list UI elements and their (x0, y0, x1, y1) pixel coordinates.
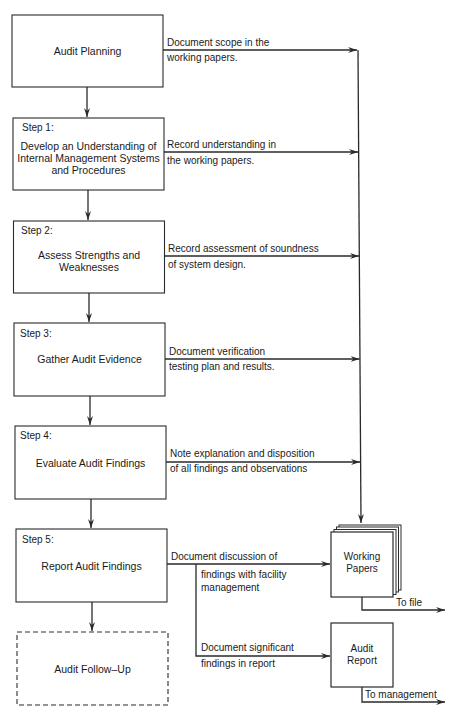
step-1-note-line1: Record understanding in (167, 139, 276, 151)
audit-report-title-line1: Audit (331, 643, 393, 655)
working-papers-title-line1: Working (331, 551, 393, 563)
working-papers-title-line2: Papers (331, 563, 393, 575)
step-4-label: Step 4: (20, 430, 52, 442)
planning-note-line2: working papers. (167, 52, 238, 64)
step-2-note-line1: Record assessment of soundness (168, 243, 319, 255)
step-1-title-line1: Develop an Understanding of (13, 140, 164, 153)
audit-follow-up-title: Audit Follow–Up (17, 663, 168, 676)
step-4-title: Evaluate Audit Findings (15, 457, 166, 470)
step-1-title-line2: Internal Management Systems (13, 152, 164, 165)
step-2-title-line1: Assess Strengths and (14, 249, 165, 262)
step-5-title: Report Audit Findings (16, 560, 167, 573)
step-5-branch-line1: Document significant (201, 642, 294, 654)
step-5-note-line2: findings with facility (201, 569, 287, 581)
step-4-note-line1: Note explanation and disposition (170, 448, 315, 460)
step-1-title-line3: and Procedures (13, 164, 164, 177)
step-5-label: Step 5: (22, 534, 54, 546)
step-2-label: Step 2: (21, 225, 53, 237)
step-1-label: Step 1: (22, 122, 54, 134)
to-management-label: To management (365, 689, 437, 701)
step-5-note-line3: management (201, 582, 259, 594)
step-3-label: Step 3: (20, 328, 52, 340)
step-3-title: Gather Audit Evidence (14, 353, 165, 366)
step-1-note-line2: the working papers. (167, 155, 254, 167)
planning-note-line1: Document scope in the (167, 37, 269, 49)
audit-report-title-line2: Report (331, 655, 393, 667)
audit-planning-title: Audit Planning (12, 45, 163, 58)
step-5-branch-line2: findings in report (201, 658, 275, 670)
documentation-trunk-line (358, 50, 361, 523)
to-file-label: To file (396, 597, 422, 609)
step-4-note-line2: of all findings and observations (170, 463, 307, 475)
step-3-note-line1: Document verification (169, 346, 265, 358)
step-2-title-line2: Weaknesses (14, 261, 165, 274)
step-3-note-line2: testing plan and results. (169, 361, 275, 373)
step-5-note-line1: Document discussion of (171, 551, 277, 563)
step-2-note-line2: of system design. (168, 259, 246, 271)
